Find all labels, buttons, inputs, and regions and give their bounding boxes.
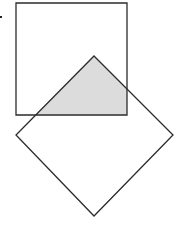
overlap-diagram (0, 0, 177, 231)
shaded-intersection-region (36, 56, 127, 115)
edge-marker (0, 16, 2, 18)
